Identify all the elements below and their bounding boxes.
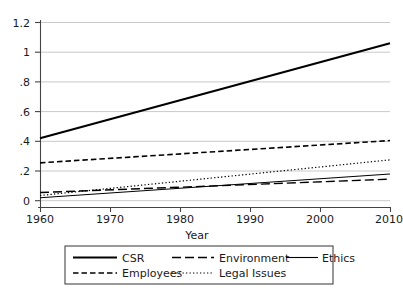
x-tick-label-1960: 1960 <box>26 213 54 226</box>
x-axis-title: Year <box>184 229 209 242</box>
legend-box <box>65 246 333 284</box>
legend-label-employees: Employees <box>122 267 182 280</box>
x-tick-label-1980: 1980 <box>166 213 194 226</box>
legend-label-csr: CSR <box>122 252 145 265</box>
y-tick-label-1_2: 1.2 <box>13 17 31 30</box>
chart-background <box>0 0 403 288</box>
x-tick-label-1970: 1970 <box>96 213 124 226</box>
y-tick-label-0_8: .8 <box>20 76 31 89</box>
y-tick-label-0_2: .2 <box>20 165 31 178</box>
legend-label-legal-issues: Legal Issues <box>219 267 286 280</box>
x-tick-label-1990: 1990 <box>236 213 264 226</box>
chart-figure: 1.2 1 .8 .6 .4 .2 0 1960 1970 1980 1 <box>0 0 403 288</box>
chart-svg: 1.2 1 .8 .6 .4 .2 0 1960 1970 1980 1 <box>0 0 403 288</box>
y-tick-label-0_6: .6 <box>20 106 31 119</box>
y-tick-label-0: 0 <box>23 195 30 208</box>
legend-label-ethics: Ethics <box>322 252 355 265</box>
x-tick-label-2010: 2010 <box>375 213 403 226</box>
y-tick-label-1: 1 <box>23 46 30 59</box>
y-tick-label-0_4: .4 <box>20 135 31 148</box>
legend: CSR Environment Ethics Employees Legal I… <box>65 246 355 284</box>
legend-label-environment: Environment <box>219 252 290 265</box>
x-tick-label-2000: 2000 <box>306 213 334 226</box>
